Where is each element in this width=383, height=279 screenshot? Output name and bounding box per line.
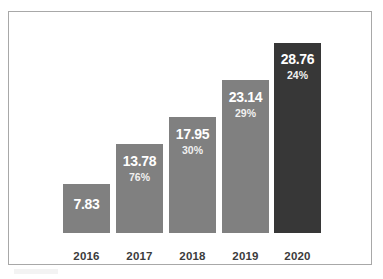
x-axis-label-2018: 2018 <box>169 250 216 262</box>
x-axis-label-2016: 2016 <box>63 250 110 262</box>
x-axis-label-2020: 2020 <box>274 250 321 262</box>
x-axis-label-2019: 2019 <box>222 250 269 262</box>
image-edge-artifact <box>14 269 58 274</box>
x-axis-labels: 2016 2017 2018 2019 2020 <box>63 12 321 266</box>
x-axis-label-2017: 2017 <box>116 250 163 262</box>
chart-frame: 7.83 13.78 76% 17.95 30% 23.14 29% <box>8 11 372 265</box>
